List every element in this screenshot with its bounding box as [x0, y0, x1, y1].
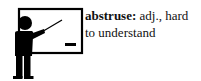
term: abstruse	[85, 8, 132, 23]
vocabulary-card: abstruse: adj., hard to understand	[0, 0, 201, 81]
definition-text: abstruse: adj., hard to understand	[85, 7, 199, 41]
part-of-speech: adj.,	[140, 8, 162, 23]
term-separator: :	[132, 8, 136, 23]
teacher-at-whiteboard-icon	[0, 0, 84, 81]
